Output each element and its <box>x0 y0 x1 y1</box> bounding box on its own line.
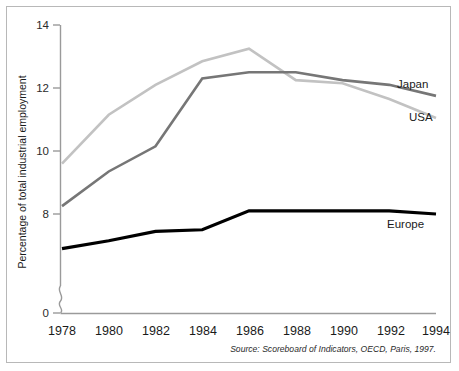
series-label-japan: Japan <box>397 78 428 90</box>
y-tick-label-0: 0 <box>43 307 49 319</box>
x-tick-label-1990: 1990 <box>330 324 358 338</box>
x-tick-label-1986: 1986 <box>236 324 264 338</box>
y-tick-label-8: 8 <box>43 208 49 220</box>
y-axis-title: Percentage of total industrial employmen… <box>16 75 28 268</box>
x-tick-label-1984: 1984 <box>189 324 217 338</box>
y-axis-break-icon <box>59 286 62 313</box>
x-axis: 1978 1980 1982 1984 1986 1988 1990 1992 … <box>48 324 450 338</box>
series-label-europe: Europe <box>387 218 424 230</box>
series-line-usa <box>62 49 436 164</box>
source-note: Source: Scoreboard of Indicators, OECD, … <box>230 344 436 354</box>
line-chart: Percentage of total industrial employmen… <box>0 0 459 371</box>
x-tick-label-1982: 1982 <box>142 324 170 338</box>
series-line-europe <box>62 211 436 249</box>
y-tick-label-12: 12 <box>36 82 49 94</box>
x-tick-label-1980: 1980 <box>95 324 123 338</box>
chart-svg: Percentage of total industrial employmen… <box>0 0 459 371</box>
x-tick-label-1988: 1988 <box>283 324 311 338</box>
x-tick-label-1994: 1994 <box>422 324 450 338</box>
series-label-usa: USA <box>409 111 433 123</box>
y-axis: 14 12 10 8 0 <box>36 19 60 319</box>
x-tick-label-1992: 1992 <box>377 324 405 338</box>
series-line-japan <box>62 72 436 206</box>
x-tick-label-1978: 1978 <box>48 324 76 338</box>
y-tick-label-10: 10 <box>36 145 49 157</box>
y-tick-label-14: 14 <box>36 19 49 31</box>
